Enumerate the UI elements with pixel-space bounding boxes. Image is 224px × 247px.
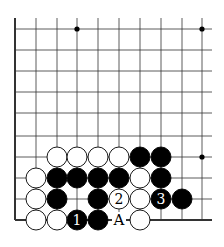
white-stone — [88, 147, 108, 167]
white-stone — [130, 168, 150, 188]
black-stone — [172, 189, 192, 209]
star-points — [74, 26, 204, 159]
black-stone: 3 — [151, 189, 171, 209]
black-stone — [151, 147, 171, 167]
white-stone — [130, 189, 150, 209]
white-stone — [47, 210, 67, 230]
black-stone — [88, 168, 108, 188]
white-stone — [67, 147, 87, 167]
white-stone — [109, 147, 129, 167]
marks-layer: A — [112, 211, 126, 229]
star-point — [199, 154, 204, 159]
white-stone — [47, 147, 67, 167]
black-stone — [109, 168, 129, 188]
move-number-label: 2 — [115, 191, 124, 207]
black-stone — [88, 210, 108, 230]
move-number-label: 1 — [73, 212, 82, 228]
white-stone: 2 — [109, 189, 129, 209]
go-board-diagram: 231 A — [0, 0, 224, 247]
black-stone: 1 — [67, 210, 87, 230]
black-stone — [47, 189, 67, 209]
move-number-label: 3 — [157, 191, 166, 207]
point-label-a: A — [113, 211, 125, 229]
star-point — [74, 26, 79, 31]
black-stone — [47, 168, 67, 188]
black-stone — [151, 168, 171, 188]
white-stone — [26, 168, 46, 188]
star-point — [199, 26, 204, 31]
black-stone — [67, 168, 87, 188]
white-stone — [26, 210, 46, 230]
black-stone — [88, 189, 108, 209]
white-stone — [130, 210, 150, 230]
black-stone — [130, 147, 150, 167]
stones-layer: 231 — [26, 147, 192, 230]
white-stone — [26, 189, 46, 209]
